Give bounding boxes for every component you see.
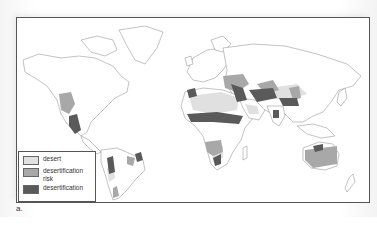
- uk: [185, 56, 193, 66]
- map-legend: desert desertification risk desertificat…: [18, 151, 96, 202]
- greenland: [119, 26, 163, 64]
- legend-item-desert: desert: [23, 155, 92, 165]
- legend-swatch-risk: [23, 168, 39, 177]
- legend-label: desert: [43, 155, 61, 163]
- legend-item-desertification: desertification: [23, 184, 92, 194]
- legend-swatch-desertification: [23, 185, 39, 194]
- arctic-islands: [81, 36, 117, 56]
- legend-swatch-desert: [23, 156, 39, 165]
- legend-label: desertification: [43, 184, 83, 192]
- se-asia-islands: [297, 124, 335, 138]
- figure-caption: a.: [16, 204, 23, 213]
- new-zealand: [345, 174, 355, 192]
- legend-label: desertification risk: [43, 167, 92, 182]
- madagascar: [243, 146, 247, 160]
- legend-item-risk: desertification risk: [23, 167, 92, 182]
